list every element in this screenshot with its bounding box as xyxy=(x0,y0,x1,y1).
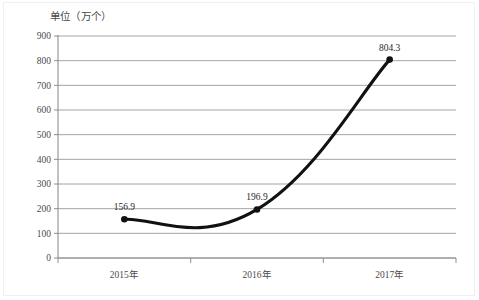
y-axis-tick-label: 500 xyxy=(37,130,52,140)
x-axis xyxy=(58,258,456,263)
data-point-label: 196.9 xyxy=(246,192,268,202)
chart-container: 单位（万个） 0100200300400500600700800900 2015… xyxy=(0,0,479,300)
data-point-marker xyxy=(121,216,128,223)
y-axis-tick-label: 200 xyxy=(37,204,52,214)
data-point-marker xyxy=(386,56,393,63)
y-axis-tick-label: 900 xyxy=(37,31,52,41)
y-axis xyxy=(54,35,58,258)
y-axis-tick-label: 300 xyxy=(37,179,52,189)
line-chart-plot: 0100200300400500600700800900 2015年2016年2… xyxy=(0,0,479,300)
y-axis-tick-label: 700 xyxy=(37,81,52,91)
data-point-labels: 156.9196.9804.3 xyxy=(114,43,401,213)
gridlines xyxy=(58,36,456,258)
y-axis-tick-label: 0 xyxy=(46,253,51,263)
data-series-line xyxy=(124,60,389,228)
y-axis-tick-label: 600 xyxy=(37,105,52,115)
series-line-path xyxy=(124,60,389,228)
x-axis-tick-label: 2015年 xyxy=(110,269,139,280)
y-axis-tick-label: 800 xyxy=(37,56,52,66)
y-axis-tick-label: 100 xyxy=(37,229,52,239)
x-axis-tick-labels: 2015年2016年2017年 xyxy=(110,269,404,280)
data-point-label: 804.3 xyxy=(379,43,401,53)
y-axis-tick-labels: 0100200300400500600700800900 xyxy=(37,31,52,263)
x-axis-tick-label: 2016年 xyxy=(243,269,272,280)
x-axis-tick-label: 2017年 xyxy=(375,269,404,280)
data-point-marker xyxy=(254,206,261,213)
y-axis-tick-label: 400 xyxy=(37,155,52,165)
data-point-label: 156.9 xyxy=(114,202,136,212)
